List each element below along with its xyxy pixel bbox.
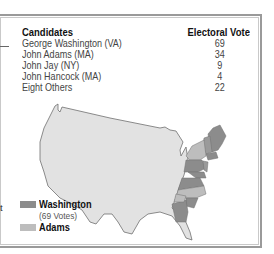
new-york (186, 140, 206, 160)
legend-item-washington: Washington (20, 198, 99, 210)
legend: Washington (69 Votes) Adams (20, 198, 99, 233)
pennsylvania (184, 160, 206, 172)
washington-swatch (20, 201, 36, 208)
legend-label: Adams (39, 221, 70, 233)
south-carolina (186, 198, 198, 208)
maryland (188, 172, 206, 178)
legend-item-adams: Adams (20, 221, 99, 233)
legend-label: Washington (39, 198, 92, 210)
new-jersey (203, 161, 208, 172)
adams-swatch (20, 224, 36, 231)
legend-sublabel: (69 Votes) (39, 210, 92, 221)
